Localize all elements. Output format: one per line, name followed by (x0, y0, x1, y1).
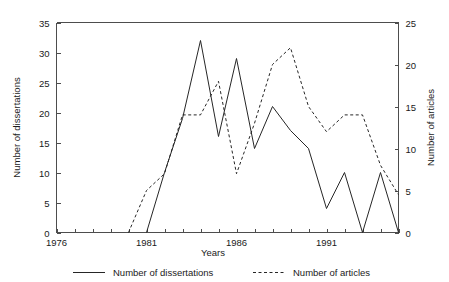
y-tick-label: 30 (39, 48, 50, 59)
legend-label-dissertations: Number of dissertations (113, 267, 214, 278)
y-tick-label: 20 (39, 108, 50, 119)
plot-frame (57, 23, 399, 233)
series-line-articles (129, 48, 399, 233)
y-tick-label: 35 (39, 18, 50, 29)
chart-container: 05101520253035 0510152025 19761981198619… (0, 0, 449, 282)
y-tick-label: 10 (39, 168, 50, 179)
line-chart: 05101520253035 0510152025 19761981198619… (0, 0, 449, 282)
y2-tick-label: 5 (406, 186, 411, 197)
x-axis-title: Years (201, 247, 225, 258)
legend-label-articles: Number of articles (293, 267, 370, 278)
x-tick-label: 1991 (316, 237, 337, 248)
y2-tick-label: 20 (406, 60, 417, 71)
series-line-dissertations (147, 41, 399, 233)
y2-axis-title: Number of articles (425, 89, 436, 166)
x-tick-label: 1976 (46, 237, 67, 248)
chart-series-group (129, 41, 399, 233)
y2-tick-label: 25 (406, 18, 417, 29)
y2-tick-label: 15 (406, 102, 417, 113)
y-tick-label: 5 (44, 198, 49, 209)
y-axis-title: Number of dissertations (11, 77, 22, 178)
y-axis-ticks: 05101520253035 (39, 18, 61, 239)
y-tick-label: 25 (39, 78, 50, 89)
x-axis-tick-labels: 1976198119861991 (46, 237, 337, 248)
y2-tick-label: 10 (406, 144, 417, 155)
x-tick-label: 1981 (136, 237, 157, 248)
x-tick-label: 1986 (226, 237, 247, 248)
x-axis-ticks (58, 229, 400, 233)
y2-axis-ticks: 0510152025 (395, 18, 417, 239)
y-tick-label: 15 (39, 138, 50, 149)
chart-legend: Number of dissertations Number of articl… (73, 267, 370, 278)
y2-tick-label: 0 (406, 228, 411, 239)
